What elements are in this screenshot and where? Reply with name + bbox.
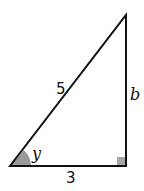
right-angle-marker [117, 157, 126, 166]
horizontal-leg-label: 3 [66, 169, 76, 187]
triangle [10, 15, 126, 166]
angle-label: y [31, 144, 42, 163]
hypotenuse-label: 5 [56, 80, 66, 98]
vertical-leg-label: b [130, 85, 140, 104]
triangle-diagram: 5 b 3 y [0, 0, 144, 191]
